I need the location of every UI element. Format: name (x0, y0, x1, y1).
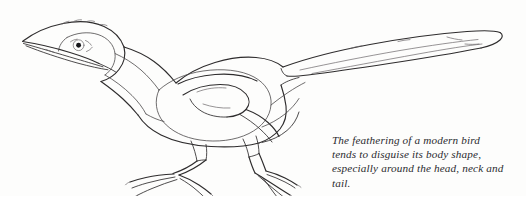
tail-outline (281, 31, 502, 85)
caption-line-1: The feathering of a modern bird (332, 133, 522, 147)
rump-inner-contour (262, 83, 305, 128)
figure-caption: The feathering of a modern bird tends to… (332, 133, 522, 190)
page-bottom-margin (0, 196, 526, 218)
caption-line-4: tail. (332, 176, 522, 190)
illustration-page: The feathering of a modern bird tends to… (0, 0, 526, 218)
neck-outline (101, 47, 176, 115)
caption-line-2: tends to disguise its body shape, (332, 147, 522, 161)
caption-line-3: especially around the head, neck and (332, 161, 522, 175)
head-inner-contour (59, 33, 116, 75)
eye-icon (71, 39, 93, 51)
beak-icon (23, 42, 109, 70)
